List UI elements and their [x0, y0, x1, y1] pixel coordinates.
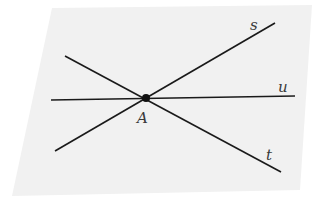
label-a: A: [135, 109, 148, 127]
label-s: s: [250, 16, 258, 34]
diagram-canvas: s t u A: [0, 0, 312, 198]
point-a-dot: [142, 94, 150, 102]
geometry-diagram: s t u A: [0, 0, 312, 198]
label-t: t: [266, 146, 273, 164]
label-u: u: [278, 78, 288, 96]
